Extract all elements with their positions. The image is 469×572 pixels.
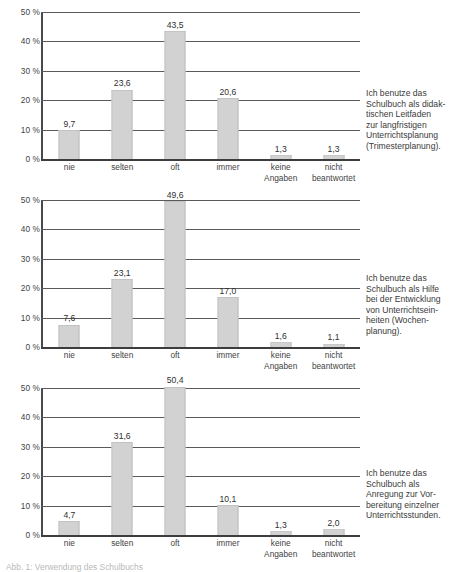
x-tick-label: keineAngaben — [254, 538, 307, 559]
y-tick-label: 40 % — [0, 413, 40, 421]
x-tick-label-line: nie — [43, 350, 96, 361]
bar — [323, 529, 344, 535]
plot-area: 7,623,149,617,01,61,1 — [41, 200, 360, 347]
bar — [59, 521, 80, 535]
bar-cell: 50,4 — [149, 388, 202, 535]
bar-value-label: 1,3 — [328, 145, 340, 154]
x-axis-labels: nieseltenoftimmerkeineAngabennichtbeantw… — [43, 350, 360, 374]
x-axis-baseline — [41, 535, 360, 537]
y-tick-label: 30 % — [0, 255, 40, 263]
x-tick-label: oft — [149, 162, 202, 173]
bar-cell: 20,6 — [202, 12, 255, 159]
bar — [112, 279, 133, 347]
caption-line: heiten (Wochen- — [366, 315, 469, 326]
y-tick-label: 20 % — [0, 284, 40, 292]
x-tick-label-line: immer — [202, 350, 255, 361]
chart-caption-1: Ich benutze dasSchulbuch als didak-tisch… — [366, 88, 469, 152]
x-tick-label-line: beantwortet — [307, 361, 360, 372]
bar-cell: 43,5 — [149, 12, 202, 159]
x-tick-label-line: oft — [149, 538, 202, 549]
bar — [165, 201, 186, 347]
x-tick-label: keineAngaben — [254, 162, 307, 183]
bar-cell: 1,3 — [254, 12, 307, 159]
bar-value-label: 1,6 — [275, 332, 287, 341]
x-tick-label-line: Angaben — [254, 361, 307, 372]
bar — [112, 442, 133, 535]
plot-area: 9,723,643,520,61,31,3 — [41, 12, 360, 159]
y-axis-labels: 0 %10 %20 %30 %40 %50 % — [0, 2, 40, 152]
bar-value-label: 23,6 — [114, 79, 131, 88]
bar-cell: 7,6 — [43, 200, 96, 347]
bar-series: 7,623,149,617,01,61,1 — [43, 200, 360, 347]
bar-value-label: 10,1 — [220, 495, 237, 504]
bar-value-label: 17,0 — [220, 287, 237, 296]
x-tick-label: nichtbeantwortet — [307, 162, 360, 183]
caption-line: bei der Entwicklung — [366, 294, 469, 305]
x-tick-label-line: Angaben — [254, 173, 307, 184]
x-tick-label: selten — [96, 162, 149, 173]
bar — [217, 505, 238, 535]
x-tick-label-line: nie — [43, 538, 96, 549]
bar — [217, 297, 238, 347]
x-tick-label: nie — [43, 350, 96, 361]
bar-cell: 4,7 — [43, 388, 96, 535]
bar — [270, 342, 291, 347]
bar-value-label: 4,7 — [63, 511, 75, 520]
bar-series: 9,723,643,520,61,31,3 — [43, 12, 360, 159]
figure-footnote: Abb. 1: Verwendung des Schulbuchs — [6, 562, 446, 572]
bar-value-label: 49,6 — [167, 191, 184, 200]
y-tick-label: 10 % — [0, 314, 40, 322]
bar-cell: 31,6 — [96, 388, 149, 535]
x-tick-label-line: keine — [254, 162, 307, 173]
bar — [59, 130, 80, 159]
x-tick-label: keineAngaben — [254, 350, 307, 371]
y-tick-label: 40 % — [0, 37, 40, 45]
x-tick-label-line: nie — [43, 162, 96, 173]
y-tick-label: 0 % — [0, 531, 40, 539]
bar — [59, 325, 80, 347]
x-tick-label-line: nicht — [307, 162, 360, 173]
x-tick-label-line: keine — [254, 350, 307, 361]
y-tick-label: 10 % — [0, 502, 40, 510]
caption-line: Unterrichtsplanung — [366, 130, 469, 141]
bar-value-label: 9,7 — [63, 120, 75, 129]
bar-value-label: 1,3 — [275, 145, 287, 154]
x-tick-label: selten — [96, 350, 149, 361]
bar-cell: 49,6 — [149, 200, 202, 347]
bar-cell: 1,1 — [307, 200, 360, 347]
y-tick-label: 0 % — [0, 155, 40, 163]
bar — [270, 531, 291, 535]
x-axis-baseline — [41, 347, 360, 349]
y-tick-label: 30 % — [0, 443, 40, 451]
y-tick-label: 50 % — [0, 196, 40, 204]
caption-line: Anregung zur Vor- — [366, 489, 469, 500]
y-tick-label: 20 % — [0, 472, 40, 480]
bar-cell: 9,7 — [43, 12, 96, 159]
x-tick-label-line: nicht — [307, 350, 360, 361]
x-axis-labels: nieseltenoftimmerkeineAngabennichtbeantw… — [43, 162, 360, 186]
caption-line: Unterrichtsstunden. — [366, 510, 469, 521]
bar-value-label: 1,1 — [328, 333, 340, 342]
caption-line: Ich benutze das — [366, 468, 469, 479]
x-tick-label: selten — [96, 538, 149, 549]
x-tick-label-line: immer — [202, 162, 255, 173]
x-axis-baseline — [41, 159, 360, 161]
bar-cell: 1,6 — [254, 200, 307, 347]
chart-caption-2: Ich benutze dasSchulbuch als Hilfebei de… — [366, 273, 469, 337]
caption-line: Schulbuch als didak- — [366, 99, 469, 110]
bar — [323, 344, 344, 347]
caption-line: planung). — [366, 326, 469, 337]
bar-value-label: 43,5 — [167, 21, 184, 30]
x-tick-label: immer — [202, 538, 255, 549]
caption-line: bereitung einzelner — [366, 500, 469, 511]
bar — [217, 98, 238, 159]
bar-cell: 10,1 — [202, 388, 255, 535]
bar-cell: 23,1 — [96, 200, 149, 347]
x-tick-label: immer — [202, 162, 255, 173]
x-tick-label-line: nicht — [307, 538, 360, 549]
y-axis-labels: 0 %10 %20 %30 %40 %50 % — [0, 378, 40, 528]
bar-value-label: 50,4 — [167, 376, 184, 385]
caption-line: Schulbuch als — [366, 479, 469, 490]
x-tick-label: nie — [43, 538, 96, 549]
bar-value-label: 31,6 — [114, 432, 131, 441]
